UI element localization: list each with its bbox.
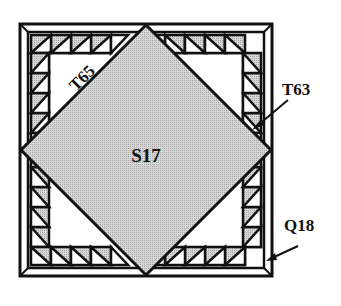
quilt-block-diagram: S17 T65 T63 Q18 [0,0,341,306]
label-t63: T63 [282,80,310,99]
label-s17: S17 [131,145,161,166]
label-q18: Q18 [284,216,314,235]
